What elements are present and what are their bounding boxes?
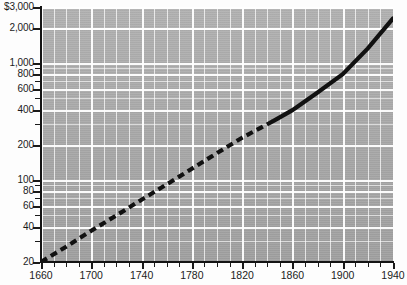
series-line-solid [274, 18, 393, 121]
y-axis-tick-label: 2,000 [0, 23, 34, 33]
x-axis-tick [79, 263, 80, 267]
y-axis-tick-label: 40 [0, 222, 34, 232]
y-axis-tick-label: 200 [0, 140, 34, 150]
data-series-layer [41, 7, 393, 262]
y-axis-tick [33, 89, 40, 91]
x-axis-tick [318, 263, 319, 267]
y-axis-tick [35, 81, 40, 82]
x-axis-tick [230, 263, 231, 267]
x-axis-tick [217, 263, 218, 267]
x-axis-tick-label: 1860 [270, 270, 314, 281]
x-axis-tick-label: 1660 [19, 270, 63, 281]
chart-figure: $3,0002,0001,00080060040020010080604020 … [0, 0, 407, 285]
y-axis-tick [33, 110, 40, 112]
x-axis-tick [179, 263, 180, 267]
y-axis-tick [35, 241, 40, 242]
x-axis-tick [104, 263, 105, 267]
x-axis-tick [54, 263, 55, 267]
x-axis-tick-label: 1700 [69, 270, 113, 281]
y-axis-tick [35, 198, 40, 199]
y-axis-tick-label: 60 [0, 201, 34, 211]
y-axis-tick [35, 124, 40, 125]
x-axis-tick-label: 1780 [170, 270, 214, 281]
y-axis-tick-label: 400 [0, 105, 34, 115]
y-axis-tick-label: 1,000 [0, 58, 34, 68]
y-axis-tick [33, 145, 40, 147]
x-axis-tick [280, 263, 281, 267]
x-axis-tick [267, 263, 268, 267]
x-axis-tick-label: 1820 [220, 270, 264, 281]
series-line-dashed [41, 121, 274, 262]
y-axis-tick [35, 215, 40, 216]
y-axis-tick [35, 185, 40, 186]
x-axis-tick [167, 263, 168, 267]
y-axis-tick [33, 180, 40, 182]
y-axis-tick-label: 20 [0, 257, 34, 267]
plot-area [41, 7, 393, 262]
x-axis-tick [305, 263, 306, 267]
y-axis-tick-label: 80 [0, 186, 34, 196]
x-axis-tick [204, 263, 205, 267]
y-axis-tick-label: 600 [0, 84, 34, 94]
y-axis-tick [33, 191, 40, 193]
y-axis-tick-label: $3,000 [0, 2, 34, 12]
y-axis-tick-label: 100 [0, 175, 34, 185]
x-axis-tick-label: 1740 [120, 270, 164, 281]
x-axis-tick [380, 263, 381, 267]
y-axis-tick-labels: $3,0002,0001,00080060040020010080604020 [0, 0, 34, 285]
y-axis-tick [35, 68, 40, 69]
y-axis-tick [35, 98, 40, 99]
x-axis-tick [330, 263, 331, 267]
x-axis-tick [66, 263, 67, 267]
x-axis-tick-label: 1900 [321, 270, 365, 281]
x-axis-tick [255, 263, 256, 267]
y-axis-tick [33, 28, 40, 30]
y-axis-tick [33, 7, 40, 9]
x-axis-tick [129, 263, 130, 267]
y-axis-tick [33, 227, 40, 229]
y-axis-tick [33, 206, 40, 208]
x-axis-tick [355, 263, 356, 267]
y-axis-tick-label: 800 [0, 69, 34, 79]
x-axis-tick [116, 263, 117, 267]
y-axis-tick [33, 262, 40, 264]
x-axis-tick [368, 263, 369, 267]
y-axis-tick [33, 63, 40, 65]
y-axis-line [40, 6, 42, 263]
x-axis-tick-label: 1940 [371, 270, 407, 281]
x-axis-tick [154, 263, 155, 267]
y-axis-tick [33, 74, 40, 76]
